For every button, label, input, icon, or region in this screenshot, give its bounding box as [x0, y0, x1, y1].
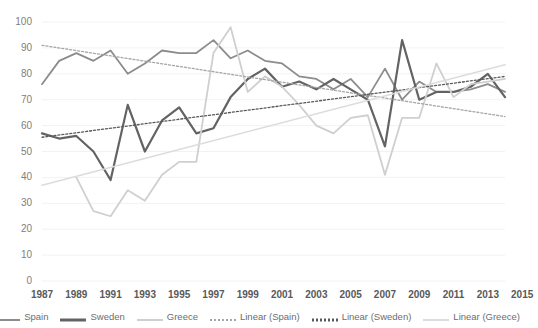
trendline-linear-greece — [42, 65, 505, 185]
x-tick-label: 1989 — [59, 290, 93, 300]
legend-label: Greece — [167, 311, 198, 322]
legend-swatch-icon — [423, 311, 449, 321]
legend-item-linear-greece[interactable]: Linear (Greece) — [423, 311, 520, 322]
series-line-spain — [42, 40, 505, 100]
legend-label: Linear (Sweden) — [342, 311, 412, 322]
x-tick-label: 2009 — [402, 290, 436, 300]
trendline-linear-sweden — [42, 76, 505, 137]
x-tick-label: 1997 — [196, 290, 230, 300]
y-tick-label: 90 — [6, 43, 32, 53]
legend-swatch-icon — [60, 311, 86, 321]
chart-legend: SpainSwedenGreeceLinear (Spain)Linear (S… — [0, 306, 514, 326]
x-tick-label: 1999 — [231, 290, 265, 300]
x-tick-label: 2001 — [265, 290, 299, 300]
legend-label: Linear (Greece) — [453, 311, 520, 322]
y-tick-label: 50 — [6, 147, 32, 157]
x-tick-label: 2011 — [437, 290, 471, 300]
legend-item-greece[interactable]: Greece — [137, 311, 198, 322]
legend-label: Spain — [24, 311, 48, 322]
x-tick-label: 2013 — [471, 290, 505, 300]
x-tick-label: 1993 — [128, 290, 162, 300]
legend-label: Linear (Spain) — [240, 311, 300, 322]
y-tick-label: 70 — [6, 95, 32, 105]
series-line-greece — [76, 27, 505, 216]
legend-item-sweden[interactable]: Sweden — [60, 311, 124, 322]
x-tick-label: 1991 — [94, 290, 128, 300]
legend-item-spain[interactable]: Spain — [0, 311, 48, 322]
y-tick-label: 30 — [6, 198, 32, 208]
x-tick-label: 2015 — [505, 290, 538, 300]
x-tick-label: 2003 — [299, 290, 333, 300]
x-tick-label: 1987 — [25, 290, 59, 300]
trendline-linear-spain — [42, 45, 505, 116]
y-tick-label: 10 — [6, 250, 32, 260]
legend-swatch-icon — [0, 311, 20, 321]
legend-item-linear-spain[interactable]: Linear (Spain) — [210, 311, 300, 322]
legend-item-linear-sweden[interactable]: Linear (Sweden) — [312, 311, 412, 322]
legend-swatch-icon — [312, 311, 338, 321]
series-line-sweden — [42, 40, 505, 180]
x-tick-label: 1995 — [162, 290, 196, 300]
legend-label: Sweden — [90, 311, 124, 322]
y-tick-label: 20 — [6, 224, 32, 234]
y-tick-label: 60 — [6, 121, 32, 131]
y-tick-label: 80 — [6, 69, 32, 79]
y-tick-label: 0 — [6, 276, 32, 286]
legend-swatch-icon — [210, 311, 236, 321]
x-tick-label: 2007 — [368, 290, 402, 300]
y-tick-label: 40 — [6, 172, 32, 182]
x-tick-label: 2005 — [334, 290, 368, 300]
legend-swatch-icon — [137, 311, 163, 321]
y-tick-label: 100 — [6, 17, 32, 27]
